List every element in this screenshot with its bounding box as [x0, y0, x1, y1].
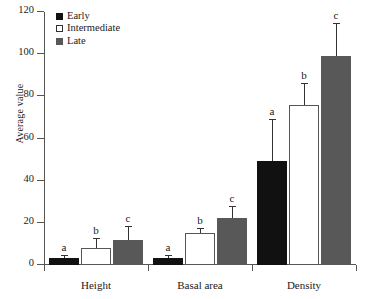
y-tick-label: 80 — [24, 88, 35, 99]
bar-inter — [185, 233, 215, 265]
significance-label: b — [301, 69, 307, 81]
error-bar-cap — [197, 228, 204, 229]
error-bar — [168, 256, 169, 258]
y-tick-label: 0 — [29, 257, 34, 268]
legend-label: Intermediate — [67, 22, 120, 34]
legend-label: Late — [67, 35, 86, 47]
error-bar-cap — [301, 83, 308, 84]
bar-late — [321, 56, 351, 265]
error-bar-cap — [93, 238, 100, 239]
y-axis-title: Average value — [14, 59, 25, 169]
x-tick — [356, 265, 357, 271]
x-tick — [252, 265, 253, 271]
legend-label: Early — [67, 10, 90, 22]
x-tick — [44, 265, 45, 271]
significance-label: c — [334, 9, 339, 21]
legend-item[interactable]: Intermediate — [56, 22, 120, 34]
error-bar — [304, 84, 305, 105]
x-axis-label: Basal area — [177, 279, 223, 291]
y-tick: 60 — [37, 138, 44, 139]
error-bar-cap — [61, 255, 68, 256]
error-bar — [336, 24, 337, 57]
bar-late — [113, 240, 143, 265]
error-bar — [64, 256, 65, 258]
early-swatch — [56, 13, 63, 20]
y-tick: 100 — [37, 53, 44, 54]
y-tick: 20 — [37, 222, 44, 223]
error-bar — [272, 120, 273, 161]
intermediate-swatch — [56, 25, 63, 32]
bar-late — [217, 218, 247, 265]
significance-label: c — [126, 212, 131, 224]
error-bar — [200, 229, 201, 234]
legend-item[interactable]: Late — [56, 35, 120, 47]
significance-label: c — [230, 192, 235, 204]
significance-label: a — [270, 105, 275, 117]
y-tick: 80 — [37, 95, 44, 96]
significance-label: a — [62, 241, 67, 253]
error-bar-cap — [125, 226, 132, 227]
y-tick-label: 100 — [18, 46, 34, 57]
y-tick-label: 120 — [18, 4, 34, 15]
error-bar — [128, 227, 129, 240]
bar-inter — [81, 248, 111, 265]
error-bar-cap — [333, 23, 340, 24]
legend-item[interactable]: Early — [56, 10, 120, 22]
y-tick: 120 — [37, 11, 44, 12]
error-bar-cap — [269, 119, 276, 120]
x-tick — [148, 265, 149, 271]
significance-label: b — [93, 224, 99, 236]
error-bar — [96, 239, 97, 247]
error-bar-cap — [165, 255, 172, 256]
bar-early — [49, 258, 79, 265]
x-axis-label: Height — [81, 279, 111, 291]
chart-legend: EarlyIntermediateLate — [56, 10, 120, 47]
y-tick: 40 — [37, 180, 44, 181]
bar-inter — [289, 105, 319, 265]
bar-early — [257, 161, 287, 265]
significance-label: a — [166, 241, 171, 253]
bar-chart: Average value 020406080100120 abcabcabc … — [0, 0, 369, 299]
y-tick-label: 40 — [24, 173, 35, 184]
y-axis-line — [44, 12, 45, 265]
error-bar — [232, 207, 233, 219]
y-tick-label: 60 — [24, 131, 35, 142]
y-tick-label: 20 — [24, 215, 35, 226]
significance-label: b — [197, 214, 203, 226]
error-bar-cap — [229, 206, 236, 207]
plot-area: 020406080100120 abcabcabc HeightBasal ar… — [44, 12, 356, 265]
y-tick: 0 — [37, 264, 44, 265]
x-axis-label: Density — [287, 279, 321, 291]
late-swatch — [56, 38, 63, 45]
bar-early — [153, 258, 183, 265]
